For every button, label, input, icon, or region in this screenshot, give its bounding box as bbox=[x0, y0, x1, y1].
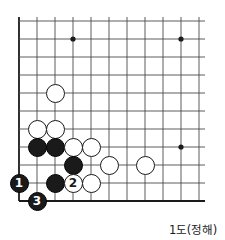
black-stone bbox=[28, 138, 47, 157]
white-stone bbox=[46, 120, 65, 139]
move-number-label: 2 bbox=[65, 175, 82, 192]
move-stone-2: 2 bbox=[64, 174, 83, 193]
go-stones-layer: 123 bbox=[0, 0, 225, 218]
black-stone bbox=[46, 138, 65, 157]
figure-caption: 1도(정해) bbox=[169, 221, 217, 237]
move-number-label: 1 bbox=[11, 175, 28, 192]
white-stone bbox=[82, 174, 101, 193]
black-stone bbox=[64, 156, 83, 175]
white-stone bbox=[136, 156, 155, 175]
move-stone-1: 1 bbox=[10, 174, 29, 193]
white-stone bbox=[28, 120, 47, 139]
move-number-label: 3 bbox=[29, 193, 46, 210]
white-stone bbox=[46, 84, 65, 103]
white-stone bbox=[64, 138, 83, 157]
black-stone bbox=[46, 174, 65, 193]
move-stone-3: 3 bbox=[28, 192, 47, 211]
white-stone bbox=[82, 138, 101, 157]
go-diagram: 123 1도(정해) bbox=[0, 0, 225, 240]
white-stone bbox=[100, 156, 119, 175]
